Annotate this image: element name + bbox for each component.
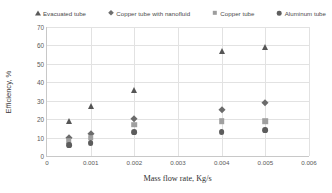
circle-marker-icon — [276, 10, 283, 17]
data-point-diamond — [218, 106, 226, 114]
legend-item-aluminum-tube: Aluminum tube — [276, 10, 326, 17]
legend-item-copper-tube: Copper tube — [211, 10, 254, 17]
data-point-square — [263, 118, 269, 124]
y-axis-tick-label: 30 — [37, 97, 44, 104]
square-marker-icon — [211, 10, 218, 17]
chart-legend: Evacuated tube Copper tube with nanoflui… — [34, 6, 326, 20]
data-point-triangle — [131, 87, 137, 93]
legend-item-copper-tube-with-nanofluid: Copper tube with nanofluid — [107, 10, 190, 17]
triangle-marker-icon — [34, 10, 41, 17]
y-axis-tick-label: 10 — [37, 134, 44, 141]
y-axis-tick-label: 60 — [37, 42, 44, 49]
gridline-vertical — [309, 27, 310, 156]
y-axis-tick-label: 50 — [37, 60, 44, 67]
legend-label: Evacuated tube — [43, 10, 86, 17]
x-axis-tick-label: 0.001 — [83, 159, 98, 166]
data-point-triangle — [219, 48, 225, 54]
y-axis-tick-label: 0 — [40, 153, 44, 160]
gridline-vertical — [178, 27, 179, 156]
x-axis-tick-label: 0.004 — [214, 159, 229, 166]
data-point-triangle — [262, 44, 268, 50]
data-point-square — [219, 118, 225, 124]
efficiency-scatter-chart: Evacuated tube Copper tube with nanoflui… — [0, 0, 332, 193]
data-point-circle — [88, 140, 94, 146]
y-axis-tick-label: 40 — [37, 79, 44, 86]
data-point-circle — [219, 129, 225, 135]
y-axis-tick-label: 70 — [37, 24, 44, 31]
gridline-vertical — [222, 27, 223, 156]
legend-label: Aluminum tube — [285, 10, 326, 17]
data-point-triangle — [88, 103, 94, 109]
legend-label: Copper tube with nanofluid — [116, 10, 190, 17]
x-axis-tick-label: 0.006 — [301, 159, 316, 166]
diamond-marker-icon — [107, 10, 114, 17]
plot-area: 01020304050607000.0010.0020.0030.0040.00… — [46, 27, 309, 157]
data-point-circle — [66, 142, 72, 148]
data-point-triangle — [66, 118, 72, 124]
y-axis-tick-label: 20 — [37, 116, 44, 123]
data-point-square — [132, 122, 138, 128]
y-axis-title: Efficiency, % — [4, 37, 13, 147]
data-point-circle — [131, 129, 137, 135]
x-axis-tick-label: 0 — [45, 159, 48, 166]
legend-label: Copper tube — [220, 10, 254, 17]
data-point-circle — [262, 127, 268, 133]
x-axis-tick-label: 0.003 — [170, 159, 185, 166]
x-axis-tick-label: 0.005 — [258, 159, 273, 166]
x-axis-tick-label: 0.002 — [127, 159, 142, 166]
legend-item-evacuated-tube: Evacuated tube — [34, 10, 86, 17]
x-axis-title: Mass flow rate, Kg/s — [46, 174, 309, 183]
